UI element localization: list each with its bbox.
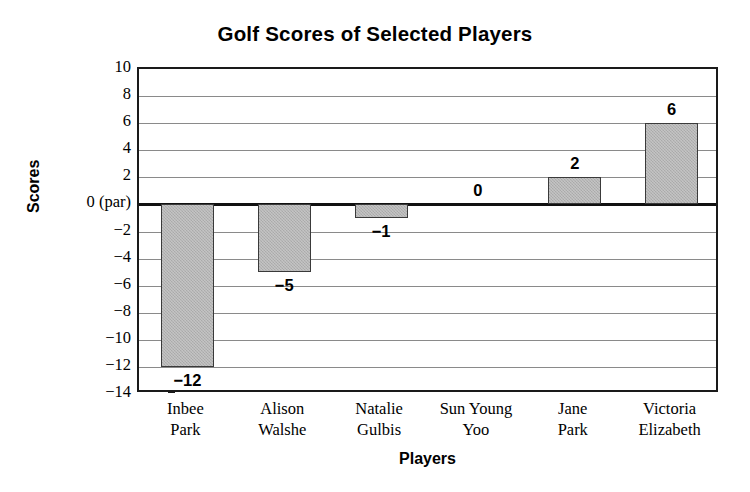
y-axis-tick-label: 10: [41, 57, 131, 77]
bar: [645, 123, 698, 204]
x-axis-category-label: NatalieGulbis: [324, 398, 434, 440]
y-axis-tick-label: −2: [41, 220, 131, 240]
x-axis-category-label-line: Gulbis: [324, 419, 434, 440]
bar-value-label: 6: [637, 100, 707, 119]
x-axis-category-label: InbeePark: [130, 398, 240, 440]
y-axis-tick-label: 6: [41, 111, 131, 131]
x-axis-category-label-line: Jane: [518, 398, 628, 419]
bar-value-label: 2: [540, 154, 610, 173]
gridline: [139, 313, 716, 314]
gridline: [139, 150, 716, 151]
x-axis-category-label-line: Inbee: [130, 398, 240, 419]
x-axis-category-label-line: Yoo: [421, 419, 531, 440]
bar-value-label: −1: [346, 222, 416, 241]
golf-scores-bar-chart: Golf Scores of Selected Players Scores 1…: [0, 0, 750, 492]
y-axis-tick-label: −12: [41, 355, 131, 375]
x-axis-title: Players: [137, 450, 718, 468]
y-axis-tick-labels: 1086420 (par)−2−4−6−8−10−12−14: [37, 67, 131, 392]
gridline: [139, 96, 716, 97]
gridline: [139, 259, 716, 260]
y-axis-tick-label: −6: [41, 274, 131, 294]
x-axis-category-label-line: Park: [130, 419, 240, 440]
x-axis-category-label: AlisonWalshe: [227, 398, 337, 440]
y-axis-tick-label: 0 (par): [41, 192, 131, 212]
y-axis-tick-label: 4: [41, 138, 131, 158]
x-axis-category-label-line: Victoria: [615, 398, 725, 419]
bar: [355, 204, 408, 218]
zero-reference-line: [139, 203, 716, 206]
gridline: [139, 367, 716, 368]
y-axis-tick-label: 2: [41, 165, 131, 185]
x-axis-category-label: JanePark: [518, 398, 628, 440]
x-axis-category-label: VictoriaElizabeth: [615, 398, 725, 440]
x-axis-category-label-line: Park: [518, 419, 628, 440]
gridline: [139, 286, 716, 287]
gridline: [139, 232, 716, 233]
y-axis-tick-label: −8: [41, 301, 131, 321]
bar-value-label: 0: [443, 181, 513, 200]
x-axis-category-label-line: Natalie: [324, 398, 434, 419]
bar-value-label: −12: [152, 371, 222, 390]
bar: [548, 177, 601, 204]
x-axis-category-label: Sun YoungYoo: [421, 398, 531, 440]
y-axis-tick-label: −14: [41, 382, 131, 402]
x-axis-category-label-line: Sun Young: [421, 398, 531, 419]
x-axis-category-label-line: Walshe: [227, 419, 337, 440]
y-axis-tick-label: 8: [41, 84, 131, 104]
x-axis-category-label-line: Elizabeth: [615, 419, 725, 440]
plot-area: −12−5−1026: [137, 67, 718, 392]
y-axis-tick-mark: [168, 392, 175, 393]
x-axis-category-label-line: Alison: [227, 398, 337, 419]
y-axis-tick-label: −10: [41, 328, 131, 348]
gridline: [139, 340, 716, 341]
bar: [161, 204, 214, 367]
y-axis-tick-label: −4: [41, 247, 131, 267]
bar-value-label: −5: [249, 276, 319, 295]
gridline: [139, 177, 716, 178]
gridline: [139, 123, 716, 124]
chart-title: Golf Scores of Selected Players: [0, 22, 750, 46]
bar: [258, 204, 311, 272]
